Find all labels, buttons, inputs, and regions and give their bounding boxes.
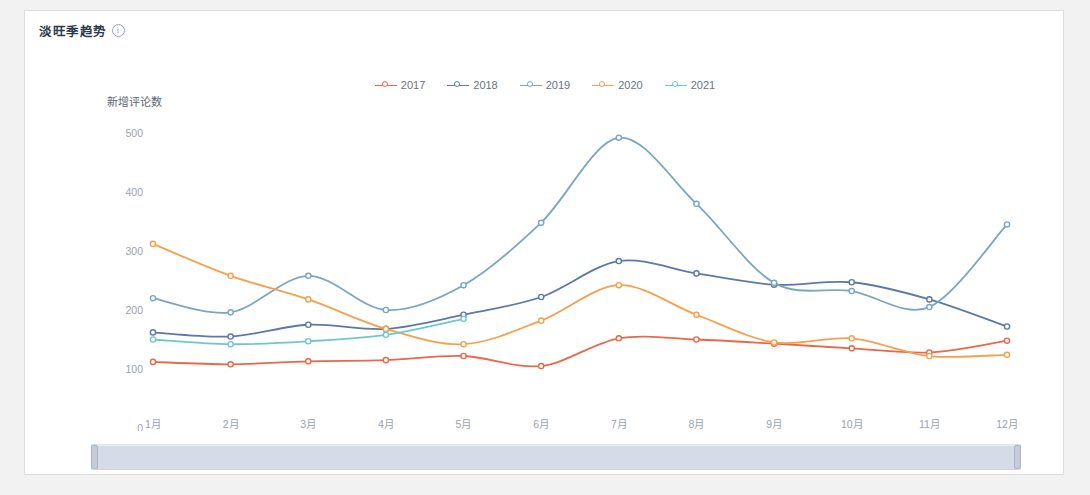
- data-point-2018[interactable]: [539, 294, 544, 299]
- data-point-2021[interactable]: [150, 337, 155, 342]
- x-axis-tick: 1月: [145, 418, 161, 430]
- data-point-2020[interactable]: [694, 312, 699, 317]
- data-point-2017[interactable]: [1004, 338, 1009, 343]
- data-point-2020[interactable]: [849, 336, 854, 341]
- data-point-2019[interactable]: [150, 296, 155, 301]
- data-point-2020[interactable]: [228, 273, 233, 278]
- data-point-2018[interactable]: [228, 334, 233, 339]
- data-point-2019[interactable]: [849, 289, 854, 294]
- slider-track[interactable]: [91, 444, 1021, 470]
- series-2021[interactable]: [150, 316, 466, 347]
- data-point-2017[interactable]: [539, 363, 544, 368]
- x-axis-tick: 9月: [766, 418, 782, 430]
- series-2017[interactable]: [150, 336, 1009, 369]
- data-point-2021[interactable]: [228, 342, 233, 347]
- data-point-2020[interactable]: [539, 318, 544, 323]
- y-axis-tick: 400: [125, 186, 143, 198]
- y-axis-name: 新增评论数: [107, 95, 162, 108]
- x-axis-tick: 5月: [456, 418, 472, 430]
- slider-handle-right[interactable]: [1014, 445, 1021, 469]
- data-point-2019[interactable]: [771, 280, 776, 285]
- data-point-2018[interactable]: [927, 297, 932, 302]
- x-axis-tick: 2月: [223, 418, 239, 430]
- data-point-2018[interactable]: [849, 280, 854, 285]
- x-axis-tick: 8月: [689, 418, 705, 430]
- data-point-2017[interactable]: [306, 359, 311, 364]
- data-point-2021[interactable]: [383, 332, 388, 337]
- data-point-2020[interactable]: [771, 340, 776, 345]
- data-point-2017[interactable]: [849, 346, 854, 351]
- series-line-2017[interactable]: [153, 337, 1007, 367]
- data-point-2021[interactable]: [306, 339, 311, 344]
- y-axis-tick: 100: [125, 363, 143, 375]
- data-point-2017[interactable]: [616, 336, 621, 341]
- y-axis-tick: 500: [125, 127, 143, 139]
- line-chart: 新增评论数01002003004005001月2月3月4月5月6月7月8月9月1…: [25, 11, 1065, 431]
- data-point-2018[interactable]: [694, 271, 699, 276]
- series-2019[interactable]: [150, 135, 1009, 315]
- y-axis-tick: 200: [125, 304, 143, 316]
- x-axis-tick: 7月: [611, 418, 627, 430]
- data-point-2017[interactable]: [228, 362, 233, 367]
- data-point-2018[interactable]: [616, 258, 621, 263]
- slider-handle-left[interactable]: [91, 445, 98, 469]
- chart-card: 淡旺季趋势 i 20172018201920202021 新增评论数010020…: [24, 10, 1064, 475]
- data-point-2019[interactable]: [927, 304, 932, 309]
- data-point-2017[interactable]: [461, 353, 466, 358]
- range-slider[interactable]: [91, 444, 1021, 470]
- data-point-2019[interactable]: [461, 283, 466, 288]
- data-point-2020[interactable]: [616, 283, 621, 288]
- data-point-2018[interactable]: [306, 322, 311, 327]
- data-point-2019[interactable]: [1004, 222, 1009, 227]
- data-point-2020[interactable]: [1004, 352, 1009, 357]
- data-point-2017[interactable]: [150, 359, 155, 364]
- data-point-2019[interactable]: [616, 135, 621, 140]
- data-point-2019[interactable]: [306, 273, 311, 278]
- y-axis-tick: 0: [137, 422, 143, 431]
- x-axis-tick: 10月: [841, 418, 863, 430]
- data-point-2018[interactable]: [1004, 324, 1009, 329]
- data-point-2017[interactable]: [383, 358, 388, 363]
- x-axis-tick: 11月: [919, 418, 940, 430]
- data-point-2020[interactable]: [383, 326, 388, 331]
- data-point-2017[interactable]: [694, 337, 699, 342]
- data-point-2020[interactable]: [306, 297, 311, 302]
- data-point-2020[interactable]: [461, 342, 466, 347]
- data-point-2019[interactable]: [228, 310, 233, 315]
- chart-plot-area: 新增评论数01002003004005001月2月3月4月5月6月7月8月9月1…: [25, 11, 1065, 476]
- x-axis-tick: 6月: [533, 418, 549, 430]
- data-point-2021[interactable]: [461, 316, 466, 321]
- y-axis-tick: 300: [125, 245, 143, 257]
- data-point-2019[interactable]: [383, 307, 388, 312]
- series-line-2018[interactable]: [153, 260, 1007, 336]
- x-axis-tick: 4月: [378, 418, 394, 430]
- data-point-2019[interactable]: [539, 220, 544, 225]
- data-point-2019[interactable]: [694, 201, 699, 206]
- slider-selection[interactable]: [96, 446, 1018, 470]
- data-point-2018[interactable]: [150, 330, 155, 335]
- x-axis-tick: 12月: [996, 418, 1018, 430]
- data-point-2020[interactable]: [927, 353, 932, 358]
- data-point-2020[interactable]: [150, 241, 155, 246]
- x-axis-tick: 3月: [300, 418, 316, 430]
